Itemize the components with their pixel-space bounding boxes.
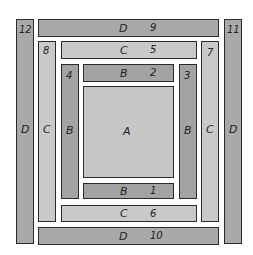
strip-3-right-b: 3 B — [179, 64, 197, 199]
strip-number: 5 — [150, 45, 156, 55]
strip-letter: D — [229, 124, 237, 135]
strip-8-left-c: 8 C — [38, 41, 56, 222]
strip-letter: B — [66, 125, 74, 136]
strip-number: 10 — [150, 231, 163, 241]
strip-11-right-d: 11 D — [224, 19, 242, 244]
strip-2-top-b: B 2 — [83, 64, 174, 82]
strip-letter: C — [206, 124, 214, 135]
strip-number: 3 — [184, 71, 190, 81]
strip-letter: C — [43, 124, 51, 135]
strip-letter: D — [119, 231, 127, 242]
strip-number: 7 — [207, 48, 213, 58]
strip-number: 8 — [43, 46, 49, 56]
center-square-a: A — [83, 86, 174, 178]
strip-1-bottom-b: B 1 — [83, 183, 174, 199]
strip-9-top-d: D 9 — [38, 19, 219, 37]
strip-letter: B — [120, 68, 128, 79]
strip-letter: C — [120, 208, 128, 219]
strip-7-right-c: 7 C — [201, 41, 219, 222]
strip-10-bottom-d: D 10 — [38, 227, 219, 245]
strip-4-left-b: 4 B — [61, 64, 79, 199]
strip-number: 9 — [150, 23, 156, 33]
strip-number: 2 — [150, 68, 156, 78]
nested-strips-diagram: 12 D D 9 11 D D 10 8 C C 5 7 C C 6 4 B B… — [0, 0, 253, 255]
strip-letter: B — [184, 125, 192, 136]
strip-number: 1 — [150, 186, 156, 196]
strip-12-left-d: 12 D — [16, 19, 34, 244]
strip-number: 11 — [227, 25, 240, 35]
strip-number: 6 — [150, 209, 156, 219]
strip-letter: C — [120, 45, 128, 56]
strip-number: 12 — [19, 25, 32, 35]
center-letter: A — [123, 126, 131, 137]
strip-6-bottom-c: C 6 — [61, 205, 197, 222]
strip-letter: B — [120, 186, 128, 197]
strip-number: 4 — [66, 71, 72, 81]
strip-5-top-c: C 5 — [61, 41, 197, 59]
strip-letter: D — [119, 23, 127, 34]
strip-letter: D — [21, 124, 29, 135]
